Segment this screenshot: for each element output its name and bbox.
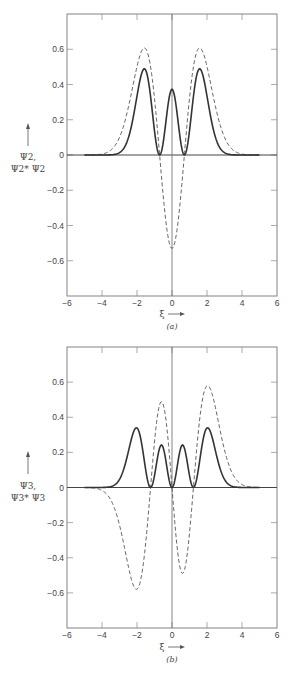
y-tick-label: 0.2 [52, 447, 64, 457]
y-tick-label: 0.4 [52, 80, 64, 90]
x-tick-label: 6 [275, 630, 280, 640]
y-tick-label: −0.2 [47, 518, 64, 528]
y-axis-label-line2: Ψ3* Ψ3 [11, 493, 46, 503]
x-tick-label: −4 [97, 298, 107, 308]
y-tick-labels: 0.60.40.20−0.2−0.4−0.6 [47, 377, 64, 598]
x-axis-label: ξ [160, 642, 165, 652]
x-tick-label: 2 [205, 298, 210, 308]
x-axis-label: ξ [160, 309, 165, 319]
y-arrow-head-icon [26, 451, 30, 457]
y-tick-labels: 0.60.40.20−0.2−0.4−0.6 [47, 44, 64, 266]
x-tick-label: 0 [170, 298, 175, 308]
x-tick-labels: −6−4−20246 [62, 630, 279, 640]
figure: 0.60.40.20−0.2−0.4−0.6 −6−4−20246 Ψ2, Ψ2… [0, 0, 292, 677]
y-axis-label-line2: Ψ2* Ψ2 [11, 164, 46, 174]
y-tick-label: −0.4 [47, 221, 64, 231]
chart-panel-b: 0.60.40.20−0.2−0.4−0.6 −6−4−20246 Ψ3, Ψ3… [11, 347, 280, 664]
x-tick-label: −2 [132, 298, 142, 308]
x-tick-label: 0 [170, 630, 175, 640]
y-arrow-head-icon [26, 123, 30, 129]
y-tick-label: −0.4 [47, 553, 64, 563]
x-tick-label: 2 [205, 630, 210, 640]
x-tick-labels: −6−4−20246 [62, 298, 279, 308]
x-arrow-head-icon [180, 312, 185, 316]
x-tick-label: −6 [62, 630, 72, 640]
panel-caption: (a) [166, 322, 177, 331]
chart-panel-a: 0.60.40.20−0.2−0.4−0.6 −6−4−20246 Ψ2, Ψ2… [11, 14, 280, 331]
x-tick-label: 4 [240, 298, 245, 308]
y-tick-label: 0.4 [52, 412, 64, 422]
y-axis-label-line1: Ψ2, [20, 152, 36, 162]
y-tick-label: 0.2 [52, 115, 64, 125]
y-tick-label: −0.2 [47, 185, 64, 195]
x-tick-label: 6 [275, 298, 280, 308]
y-tick-label: 0.6 [52, 44, 64, 54]
y-tick-label: 0.6 [52, 377, 64, 387]
panel-caption: (b) [166, 655, 177, 664]
y-tick-label: −0.6 [47, 588, 64, 598]
x-tick-label: 4 [240, 630, 245, 640]
y-tick-label: −0.6 [47, 256, 64, 266]
y-axis-label-line1: Ψ3, [20, 481, 36, 491]
y-tick-label: 0 [59, 150, 64, 160]
x-arrow-head-icon [180, 645, 185, 649]
x-tick-label: −6 [62, 298, 72, 308]
x-tick-label: −2 [132, 630, 142, 640]
y-tick-label: 0 [59, 483, 64, 493]
x-tick-label: −4 [97, 630, 107, 640]
